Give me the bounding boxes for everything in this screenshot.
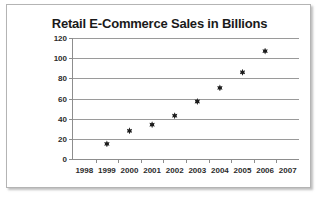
x-tick-label-2002: 2002 [166, 166, 184, 175]
x-tick-label-1998: 1998 [75, 166, 93, 175]
x-tick-label-2005: 2005 [234, 166, 252, 175]
x-tick-mark-7 [254, 159, 255, 163]
y-tick-label-120: 120 [54, 34, 67, 43]
x-tick-label-2004: 2004 [211, 166, 229, 175]
x-tick-mark-2 [141, 159, 142, 163]
y-tick-mark-120 [69, 38, 73, 39]
gridline-120 [73, 38, 299, 39]
gridline-60 [73, 99, 299, 100]
chart-container: Retail E-Commerce Sales in Billions 120 … [6, 4, 311, 188]
x-tick-mark-8 [276, 159, 277, 163]
gridline-20 [73, 139, 299, 140]
x-tick-mark-3 [163, 159, 164, 163]
y-tick-label-40: 40 [58, 114, 67, 123]
y-tick-mark-20 [69, 139, 73, 140]
x-tick-label-1999: 1999 [98, 166, 116, 175]
y-tick-label-100: 100 [54, 54, 67, 63]
chart-title: Retail E-Commerce Sales in Billions [7, 16, 312, 31]
data-point [126, 127, 133, 134]
data-point [216, 84, 223, 91]
plot-area: 120 100 80 60 40 20 0 1998 1999 2000 200… [73, 38, 299, 159]
x-tick-mark-1 [118, 159, 119, 163]
data-point [149, 121, 156, 128]
x-tick-label-2003: 2003 [188, 166, 206, 175]
y-tick-label-60: 60 [58, 94, 67, 103]
gridline-80 [73, 78, 299, 79]
y-tick-label-80: 80 [58, 74, 67, 83]
x-tick-mark-5 [209, 159, 210, 163]
y-tick-label-20: 20 [58, 134, 67, 143]
x-tick-mark-6 [231, 159, 232, 163]
y-tick-mark-60 [69, 99, 73, 100]
x-tick-label-2000: 2000 [121, 166, 139, 175]
x-tick-label-2007: 2007 [279, 166, 297, 175]
gridline-40 [73, 119, 299, 120]
x-tick-label-2001: 2001 [143, 166, 161, 175]
y-tick-label-0: 0 [63, 155, 67, 164]
data-point [103, 140, 110, 147]
x-tick-mark-4 [186, 159, 187, 163]
gridline-100 [73, 58, 299, 59]
x-tick-mark-0 [96, 159, 97, 163]
data-point [262, 48, 269, 55]
y-tick-mark-40 [69, 119, 73, 120]
x-tick-label-2006: 2006 [256, 166, 274, 175]
data-point [239, 69, 246, 76]
y-tick-mark-80 [69, 78, 73, 79]
y-tick-mark-0 [69, 159, 73, 160]
y-tick-mark-100 [69, 58, 73, 59]
